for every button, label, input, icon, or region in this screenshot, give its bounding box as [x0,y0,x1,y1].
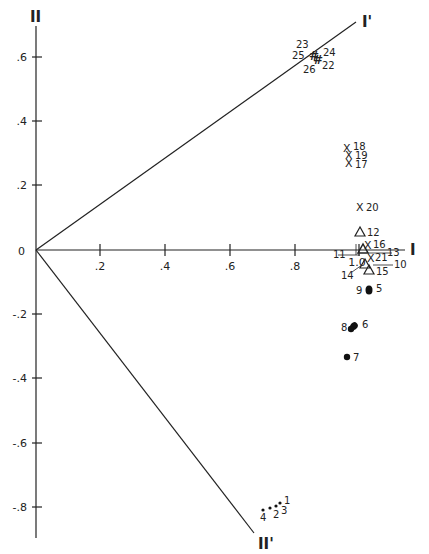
point-label: 16 [373,239,386,250]
point-label: 7 [353,352,359,363]
x-tick-labels: .2 .4 .6 .8 1.0 [95,256,366,273]
point-label: 21 [375,252,388,263]
y-tick-label: .4 [17,115,28,128]
origin-label: 0 [18,245,25,258]
large-dot-cluster: 9 5 8 6 7 [341,283,382,363]
x-tick-label: .6 [225,260,236,273]
point-label: 25 [292,50,305,61]
point-label: 22 [322,60,335,71]
point-label: 12 [367,227,380,238]
y-tick-label: -.6 [13,437,27,450]
small-dot-marker [274,504,277,507]
x-marker: X [367,252,375,265]
point-label: 1 [284,495,290,506]
point-label: 11 [333,249,346,260]
point-label: 13 [387,247,400,258]
y-tick-labels: .6 .4 .2 -.2 -.4 -.6 -.8 [13,51,27,514]
x-marker: X [356,201,364,214]
rotated-axis-i-prime [36,22,356,250]
triangle-marker [355,227,365,236]
point-label: 15 [376,266,389,277]
x-marker: X [364,239,372,252]
cross-cluster-upper: X X X 18 19 17 X 20 [343,141,379,214]
axis-label-ii: II [30,8,41,26]
x-tick-label: .8 [290,260,301,273]
point-label: 2 [273,509,279,520]
y-tick-label: .2 [17,179,28,192]
small-dot-marker [268,506,271,509]
filled-dot-marker [348,326,354,332]
point-label: 3 [281,505,287,516]
point-label: 14 [341,270,354,281]
rotated-axis-ii-prime [36,250,254,533]
point-label: 9 [356,285,362,296]
point-label: 17 [355,159,368,170]
point-label: 24 [323,47,336,58]
point-label: 5 [376,283,382,294]
factor-loading-plot: II I I' II' 0 .6 .4 .2 -.2 -.4 -.6 -.8 .… [0,0,429,554]
y-tick-label: -.8 [13,501,27,514]
x-marker: X [345,157,353,170]
point-label: 10 [394,259,407,270]
y-tick-label: -.2 [13,308,27,321]
point-label: 26 [303,64,316,75]
point-label: 4 [260,512,266,523]
hash-cluster: # # 23 25 24 22 26 [292,39,336,75]
axis-label-i: I [410,241,416,259]
axis-label-i-prime: I' [362,13,372,31]
x-tick-label: .4 [160,260,171,273]
y-tick-label: .6 [17,51,28,64]
point-label: 6 [362,319,368,330]
point-label: 8 [341,322,347,333]
filled-dot-marker [366,286,373,295]
point-label: 20 [366,202,379,213]
y-tick-label: -.4 [13,372,27,385]
filled-dot-marker [344,354,350,360]
triangle-cluster: 12 X 16 11 13 X 21 10 14 15 [333,227,407,281]
axis-label-ii-prime: II' [258,535,274,553]
small-dot-cluster: 4 2 3 1 [260,495,290,523]
point-label: 23 [296,39,309,50]
x-tick-label: .2 [95,260,106,273]
